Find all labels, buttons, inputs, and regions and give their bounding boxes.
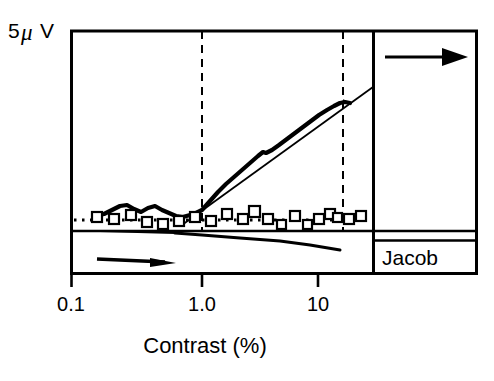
marker-square: [174, 216, 184, 226]
regression-fit-line: [182, 87, 373, 225]
marker-square: [238, 214, 248, 224]
marker-square: [314, 214, 324, 224]
signal-amplitude-trace: [95, 102, 350, 217]
phase-trace: [100, 231, 340, 250]
marker-square: [303, 220, 312, 229]
marker-square: [344, 214, 354, 224]
plot-frame: [70, 31, 478, 275]
x-axis-ticks: [72, 273, 319, 287]
right-arrow-icon: [385, 48, 468, 66]
marker-square: [206, 216, 216, 226]
marker-square: [222, 209, 232, 219]
marker-square: [263, 214, 273, 224]
y-axis-label-unit: V: [40, 19, 54, 42]
marker-square: [277, 220, 286, 229]
marker-square: [158, 219, 168, 229]
marker-square: [142, 217, 152, 227]
marker-square: [249, 206, 260, 217]
marker-square: [356, 211, 366, 221]
y-axis-label-value: 5: [8, 19, 20, 42]
x-tick-label-1: 1.0: [188, 293, 216, 315]
y-axis-label-mu: μ: [20, 20, 33, 45]
marker-square: [109, 214, 119, 224]
marker-square: [126, 210, 136, 220]
y-axis-label: 5 μ V: [8, 19, 54, 45]
marker-square: [190, 212, 200, 222]
subject-label: Jacob: [382, 246, 438, 269]
x-tick-label-2: 10: [307, 293, 329, 315]
x-axis-title: Contrast (%): [143, 333, 266, 358]
x-tick-label-0: 0.1: [57, 293, 85, 315]
panel-divider: [373, 31, 477, 273]
noise-floor-markers: [92, 206, 366, 229]
lower-strip-arrow-icon: [97, 258, 176, 267]
marker-square: [333, 213, 342, 222]
chart-canvas: 0.1 1.0 10 5 μ V Contrast (%) Jacob: [0, 0, 494, 381]
marker-square: [290, 211, 300, 221]
marker-square: [92, 212, 102, 222]
figure-root: 0.1 1.0 10 5 μ V Contrast (%) Jacob: [0, 0, 494, 381]
